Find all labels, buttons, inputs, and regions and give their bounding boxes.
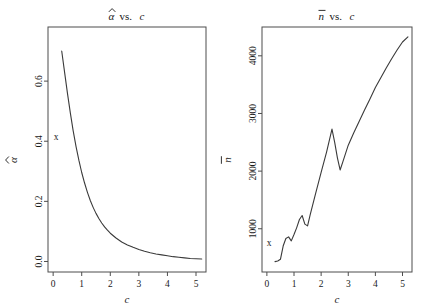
panel-0-title-connector: vs. bbox=[120, 10, 133, 22]
x-tick-label-1-4: 4 bbox=[373, 279, 378, 289]
y-tick-label-group-1-1: 2000 bbox=[248, 161, 258, 180]
x-tick-label-1-5: 5 bbox=[400, 279, 405, 289]
x-tick-label-0-0: 0 bbox=[51, 279, 56, 289]
data-line-0 bbox=[62, 51, 202, 259]
data-line-1 bbox=[275, 37, 408, 262]
panel-1-title-symbol: n bbox=[319, 10, 325, 22]
y-tick-label-group-0-0: 0.0 bbox=[34, 255, 44, 267]
y-tick-label-group-1-0: 1000 bbox=[248, 219, 258, 238]
y-tick-label-group-0-2: 0.4 bbox=[34, 135, 44, 147]
panel-1-title-variable: c bbox=[350, 10, 355, 22]
y-tick-label-group-0-1: 0.2 bbox=[34, 195, 44, 207]
panel-1-title-connector: vs. bbox=[330, 10, 343, 22]
y-axis-title-0-group: α bbox=[6, 157, 19, 163]
y-tick-label-1-0: 1000 bbox=[248, 219, 258, 238]
plot-frame-0 bbox=[48, 27, 206, 272]
x-marker-0: x bbox=[54, 132, 59, 142]
y-tick-label-group-0-3: 0.6 bbox=[34, 75, 44, 87]
y-tick-label-group-1-2: 3000 bbox=[248, 104, 258, 123]
x-tick-label-1-0: 0 bbox=[265, 279, 270, 289]
panel-0-title-variable: c bbox=[140, 10, 145, 22]
y-axis-title-0-symbol: α bbox=[7, 157, 19, 163]
x-tick-label-1-1: 1 bbox=[292, 279, 297, 289]
y-tick-label-0-2: 0.4 bbox=[34, 135, 44, 147]
x-tick-label-1-2: 2 bbox=[319, 279, 324, 289]
panel-0: αvs.c0123450.00.20.40.6cαx bbox=[6, 9, 206, 305]
x-axis-title-0: c bbox=[125, 293, 130, 305]
y-axis-title-1-symbol: n bbox=[221, 157, 233, 163]
y-tick-label-group-1-3: 4000 bbox=[248, 46, 258, 65]
y-tick-label-1-2: 3000 bbox=[248, 104, 258, 123]
plot-frame-1 bbox=[262, 27, 412, 272]
panel-1: nvs.c0123451000200030004000cnx bbox=[221, 10, 412, 305]
y-tick-label-1-3: 4000 bbox=[248, 46, 258, 65]
x-tick-label-0-5: 5 bbox=[194, 279, 199, 289]
x-tick-label-0-1: 1 bbox=[79, 279, 84, 289]
y-tick-label-0-1: 0.2 bbox=[34, 195, 44, 207]
figure-svg: αvs.c0123450.00.20.40.6cαxnvs.c012345100… bbox=[0, 0, 424, 308]
x-marker-1: x bbox=[267, 238, 272, 248]
figure-container: αvs.c0123450.00.20.40.6cαxnvs.c012345100… bbox=[0, 0, 424, 308]
x-tick-label-0-4: 4 bbox=[165, 279, 170, 289]
x-tick-label-0-2: 2 bbox=[108, 279, 113, 289]
y-tick-label-1-1: 2000 bbox=[248, 161, 258, 180]
y-tick-label-0-3: 0.6 bbox=[34, 75, 44, 87]
x-tick-label-1-3: 3 bbox=[346, 279, 351, 289]
y-axis-title-1-group: n bbox=[221, 157, 233, 164]
x-tick-label-0-3: 3 bbox=[136, 279, 141, 289]
x-axis-title-1: c bbox=[335, 293, 340, 305]
y-tick-label-0-0: 0.0 bbox=[34, 255, 44, 267]
